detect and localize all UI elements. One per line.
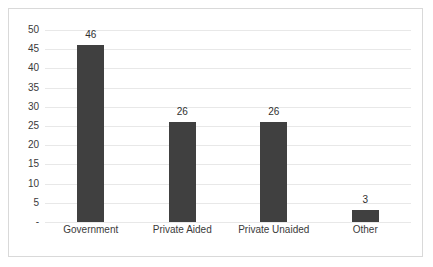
x-axis-category-label: Other <box>320 225 412 235</box>
x-axis-category-label: Private Unaided <box>228 225 320 235</box>
x-axis-category-label: Government <box>45 225 137 235</box>
bar-value-label: 46 <box>85 30 96 40</box>
y-axis-tick-label: 5 <box>33 198 39 208</box>
y-axis-tick-label: 45 <box>28 44 39 54</box>
y-axis-tick-label: - <box>36 217 39 227</box>
bar[interactable] <box>352 210 379 222</box>
bar[interactable] <box>77 45 104 222</box>
y-axis-tick-label: 25 <box>28 121 39 131</box>
gridline <box>45 222 411 223</box>
bar-value-label: 3 <box>362 195 368 205</box>
y-axis-tick-label: 35 <box>28 83 39 93</box>
y-axis-tick-label: 10 <box>28 179 39 189</box>
y-axis-tick-label: 15 <box>28 159 39 169</box>
plot-area: 5045403530252015105- 4626263 <box>45 30 411 222</box>
y-axis-tick-label: 50 <box>28 25 39 35</box>
bar-slot: 26 <box>228 30 320 222</box>
bar-value-label: 26 <box>177 107 188 117</box>
bar-slot: 3 <box>320 30 412 222</box>
bar[interactable] <box>260 122 287 222</box>
y-axis-tick-label: 20 <box>28 140 39 150</box>
x-axis-category-label: Private Aided <box>137 225 229 235</box>
y-axis-tick-label: 30 <box>28 102 39 112</box>
bar[interactable] <box>169 122 196 222</box>
bar-series: 4626263 <box>45 30 411 222</box>
bar-value-label: 26 <box>268 107 279 117</box>
x-axis-category-labels: GovernmentPrivate AidedPrivate UnaidedOt… <box>45 225 411 235</box>
bar-slot: 46 <box>45 30 137 222</box>
chart-frame: 5045403530252015105- 4626263 GovernmentP… <box>8 8 423 257</box>
y-axis-tick-label: 40 <box>28 63 39 73</box>
bar-slot: 26 <box>137 30 229 222</box>
